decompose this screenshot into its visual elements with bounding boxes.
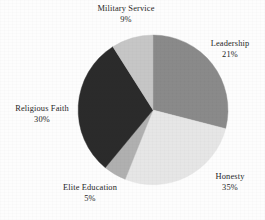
pie-label-leadership-name: Leadership <box>199 39 261 50</box>
pie-label-religious-faith: Religious Faith 30% <box>2 104 82 125</box>
pie-label-military-service: Military Service 9% <box>84 4 168 25</box>
pie-label-honesty: Honesty 35% <box>199 172 261 193</box>
pie-chart-figure: Military Service 9% Leadership 21% Hones… <box>0 0 265 220</box>
pie-label-elite-education: Elite Education 5% <box>48 183 132 204</box>
pie-label-elite-education-value: 5% <box>48 194 132 205</box>
pie-label-religious-faith-name: Religious Faith <box>2 104 82 115</box>
pie-label-elite-education-name: Elite Education <box>48 183 132 194</box>
pie-label-honesty-value: 35% <box>199 183 261 194</box>
pie-label-military-service-name: Military Service <box>84 4 168 15</box>
pie-label-leadership: Leadership 21% <box>199 39 261 60</box>
pie-label-military-service-value: 9% <box>84 15 168 26</box>
pie-label-leadership-value: 21% <box>199 50 261 61</box>
pie-label-honesty-name: Honesty <box>199 172 261 183</box>
pie-label-religious-faith-value: 30% <box>2 115 82 126</box>
